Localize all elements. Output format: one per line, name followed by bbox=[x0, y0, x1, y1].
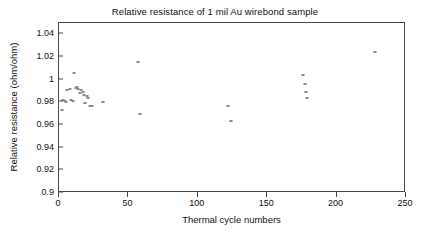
x-tick-mark bbox=[405, 192, 406, 197]
x-tick-label: 100 bbox=[189, 198, 204, 208]
y-tick-mark bbox=[58, 33, 63, 34]
data-point bbox=[137, 61, 140, 63]
plot-area bbox=[58, 22, 405, 192]
y-tick-label: 1 bbox=[49, 74, 54, 84]
data-point bbox=[84, 102, 87, 104]
y-tick-mark bbox=[58, 169, 63, 170]
x-tick-mark bbox=[266, 192, 267, 197]
chart-title: Relative resistance of 1 mil Au wirebond… bbox=[0, 6, 430, 17]
data-point bbox=[63, 100, 66, 102]
x-tick-mark bbox=[127, 192, 128, 197]
y-tick-mark bbox=[58, 56, 63, 57]
y-tick-label: 0.92 bbox=[36, 164, 54, 174]
y-tick-label: 1.02 bbox=[36, 51, 54, 61]
y-axis-tick-labels: 0.90.920.940.960.9811.021.04 bbox=[22, 22, 54, 192]
y-tick-label: 0.9 bbox=[41, 187, 54, 197]
y-axis-label: Relative resistance (ohm/ohm) bbox=[8, 22, 22, 192]
data-point bbox=[102, 101, 105, 103]
x-tick-label: 0 bbox=[55, 198, 60, 208]
y-tick-label: 1.04 bbox=[36, 28, 54, 38]
chart-figure: Relative resistance of 1 mil Au wirebond… bbox=[0, 0, 430, 236]
data-point bbox=[91, 105, 94, 107]
x-tick-label: 250 bbox=[397, 198, 412, 208]
data-point bbox=[78, 92, 81, 94]
y-tick-mark bbox=[58, 78, 63, 79]
y-tick-mark bbox=[58, 124, 63, 125]
y-tick-mark bbox=[58, 146, 63, 147]
y-tick-mark bbox=[58, 101, 63, 102]
data-point bbox=[64, 101, 67, 103]
y-tick-label: 0.94 bbox=[36, 142, 54, 152]
data-point bbox=[66, 89, 69, 91]
data-point bbox=[76, 86, 79, 88]
x-tick-mark bbox=[336, 192, 337, 197]
data-point bbox=[138, 113, 141, 115]
data-point bbox=[73, 72, 76, 74]
data-point bbox=[305, 91, 308, 93]
data-point bbox=[374, 51, 377, 53]
data-point bbox=[81, 91, 84, 93]
x-tick-mark bbox=[58, 192, 59, 197]
data-point bbox=[82, 94, 85, 96]
data-point bbox=[306, 97, 309, 99]
scatter-points-layer bbox=[59, 23, 404, 191]
data-point bbox=[74, 87, 77, 89]
data-point bbox=[87, 97, 90, 99]
data-point bbox=[227, 105, 230, 107]
x-tick-label: 200 bbox=[328, 198, 343, 208]
data-point bbox=[85, 95, 88, 97]
data-point bbox=[70, 99, 73, 101]
data-point bbox=[230, 120, 233, 122]
y-tick-label: 0.96 bbox=[36, 119, 54, 129]
x-tick-mark bbox=[197, 192, 198, 197]
x-tick-label: 150 bbox=[259, 198, 274, 208]
data-point bbox=[60, 109, 63, 111]
data-point bbox=[80, 89, 83, 91]
data-point bbox=[71, 100, 74, 102]
data-point bbox=[77, 88, 80, 90]
data-point bbox=[88, 105, 91, 107]
data-point bbox=[303, 83, 306, 85]
x-tick-label: 50 bbox=[122, 198, 132, 208]
x-axis-label: Thermal cycle numbers bbox=[58, 214, 405, 225]
data-point bbox=[302, 74, 305, 76]
y-tick-label: 0.98 bbox=[36, 96, 54, 106]
data-point bbox=[69, 88, 72, 90]
